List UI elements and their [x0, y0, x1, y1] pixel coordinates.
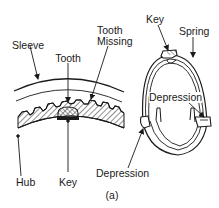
key-leader-dot — [67, 120, 70, 123]
hub-leader-dot — [17, 135, 20, 138]
sleeve-inner-arc — [16, 90, 122, 102]
tooth-missing-label-line2: Missing — [97, 36, 133, 47]
depression-bottom-leader — [128, 129, 143, 168]
key-right-leader — [158, 25, 168, 50]
key-label: Key — [59, 177, 77, 188]
figure-caption: (a) — [106, 190, 119, 201]
figure: Sleeve Tooth Tooth Missing Hub Key Key S… — [0, 0, 219, 208]
key-right-label: Key — [146, 14, 164, 25]
sleeve-label: Sleeve — [12, 40, 44, 51]
depression-top-label: Depression — [149, 92, 202, 103]
hub-label: Hub — [16, 177, 35, 188]
spring-label: Spring — [179, 26, 209, 37]
depression-bottom-label: Depression — [96, 168, 149, 179]
tooth-missing-leader — [91, 46, 108, 99]
tooth-label: Tooth — [55, 53, 81, 64]
hub-leader — [18, 136, 21, 176]
